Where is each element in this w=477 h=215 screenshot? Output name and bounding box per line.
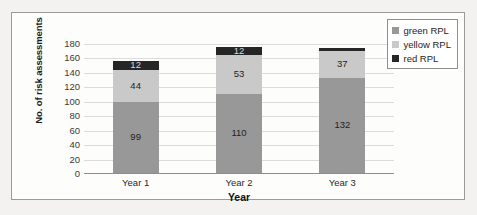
legend-item[interactable]: yellow RPL [392,37,451,51]
y-axis-tick-label: 160 [54,53,80,63]
bar-segment-value: 132 [334,120,350,130]
y-axis-tick-labels: 180160140120100806040200 [54,39,80,179]
legend-swatch-icon [392,27,399,34]
bar-segment-green[interactable]: 132 [319,78,365,173]
legend-item[interactable]: red RPL [392,51,451,65]
x-axis-tick-label: Year 3 [307,177,377,188]
bar-segment-green[interactable]: 99 [113,102,159,174]
y-axis-tick-label: 80 [54,111,80,121]
y-axis-tick-label: 40 [54,140,80,150]
stacked-bar[interactable]: 1105312 [216,47,262,173]
bar-segment-value: 110 [231,128,246,138]
y-axis-tick-label: 180 [54,39,80,49]
y-axis-tick-label: 0 [54,169,80,179]
y-axis-title: No. of risk assessments [33,7,44,135]
legend-label: yellow RPL [403,39,451,50]
legend-label: green RPL [403,25,448,36]
y-axis-tick-label: 20 [54,155,80,165]
x-axis-line [84,173,394,174]
bar-segment-yellow[interactable]: 37 [319,51,365,78]
legend-label: red RPL [403,53,438,64]
x-axis-tick-label: Year 1 [101,177,171,188]
legend-swatch-icon [392,41,399,48]
y-axis-tick-label: 120 [54,82,80,92]
chart-frame: No. of risk assessments 1801601401201008… [11,12,465,200]
bar-segment-red[interactable]: 12 [216,47,262,56]
stacked-bar[interactable]: 994412 [113,61,159,173]
chart-legend: green RPLyellow RPLred RPL [387,19,458,69]
bar-segment-value: 99 [130,132,141,142]
bar-segment-yellow[interactable]: 44 [113,70,159,102]
legend-item[interactable]: green RPL [392,23,451,37]
bar-segment-green[interactable]: 110 [216,94,262,173]
bar-segment-value: 37 [337,59,348,69]
y-axis-tick-label: 140 [54,68,80,78]
bar-segment-value: 44 [130,81,141,91]
y-axis-tick-label: 100 [54,97,80,107]
stacked-bar[interactable]: 13237 [319,48,365,173]
legend-swatch-icon [392,55,399,62]
x-axis-title: Year [84,191,394,203]
y-axis-tick-label: 60 [54,126,80,136]
x-axis-tick-label: Year 2 [204,177,274,188]
plot-area: 994412110531213237 [84,44,394,174]
bar-segment-yellow[interactable]: 53 [216,55,262,93]
bar-segment-value: 53 [234,69,245,79]
x-axis-tick-labels: Year 1Year 2Year 3 [84,177,394,191]
bar-segment-red[interactable]: 12 [113,61,159,70]
